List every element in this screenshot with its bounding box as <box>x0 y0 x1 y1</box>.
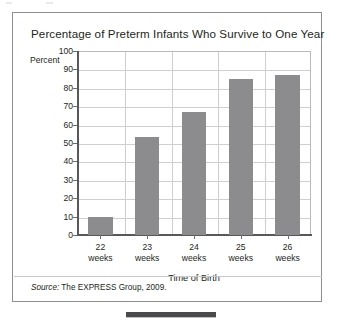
y-axis-tick-label: 30 <box>19 175 73 185</box>
x-axis-tick-label-line: weeks <box>182 253 206 264</box>
x-axis-tick-label: 24weeks <box>182 242 206 264</box>
x-axis-tick-mark <box>288 235 289 239</box>
x-axis-tick-label: 26weeks <box>275 242 299 264</box>
x-axis-title: Time of Birth <box>77 273 311 283</box>
y-axis-tick-label: 70 <box>19 101 73 111</box>
bar <box>229 79 253 235</box>
y-axis-tick-label: 50 <box>19 138 73 148</box>
y-axis-tick-label: 80 <box>19 83 73 93</box>
y-axis-tick-label: 60 <box>19 120 73 130</box>
x-axis-tick-label-line: 23 <box>135 242 159 253</box>
source-label: Source: <box>31 283 59 292</box>
x-axis-tick-label-line: weeks <box>88 253 112 264</box>
source-note: Source: The EXPRESS Group, 2009. <box>31 283 166 292</box>
chart-title: Percentage of Preterm Infants Who Surviv… <box>31 27 309 40</box>
bar <box>182 112 206 235</box>
x-axis-tick-mark <box>147 235 148 239</box>
scan-artifact <box>6 2 12 4</box>
y-axis-tick-label: 10 <box>19 212 73 222</box>
page-footer-bar-shadow <box>126 317 216 318</box>
bar <box>135 137 159 235</box>
x-axis-tick-label-line: weeks <box>229 253 253 264</box>
x-axis-tick-mark <box>194 235 195 239</box>
x-axis-tick-mark <box>241 235 242 239</box>
y-axis-tick-label: 90 <box>19 64 73 74</box>
y-axis-tick-label: 100 <box>19 46 73 56</box>
x-axis-tick-label-line: weeks <box>135 253 159 264</box>
x-axis-tick-label-line: 24 <box>182 242 206 253</box>
x-axis-tick-mark <box>100 235 101 239</box>
x-axis-tick-label: 22weeks <box>88 242 112 264</box>
source-divider <box>14 276 322 277</box>
x-axis-tick-label-line: 26 <box>275 242 299 253</box>
x-axis-tick-label-line: weeks <box>275 253 299 264</box>
chart-frame: Percentage of Preterm Infants Who Surviv… <box>12 12 322 302</box>
y-axis-tick-label: 40 <box>19 156 73 166</box>
x-axis-tick-label-line: 25 <box>229 242 253 253</box>
y-axis-tick-label: 0 <box>19 230 73 240</box>
x-axis-tick-label: 23weeks <box>135 242 159 264</box>
x-axis-tick-label-line: 22 <box>88 242 112 253</box>
y-axis-tick-mark <box>73 235 77 236</box>
y-axis-tick-label: 20 <box>19 193 73 203</box>
x-axis-tick-label: 25weeks <box>229 242 253 264</box>
bar <box>275 75 299 235</box>
bar <box>88 217 112 235</box>
source-value: The EXPRESS Group, 2009. <box>59 283 166 292</box>
scan-artifact <box>46 2 53 4</box>
figure-root: Percentage of Preterm Infants Who Surviv… <box>0 0 342 322</box>
bar-series <box>77 51 311 235</box>
